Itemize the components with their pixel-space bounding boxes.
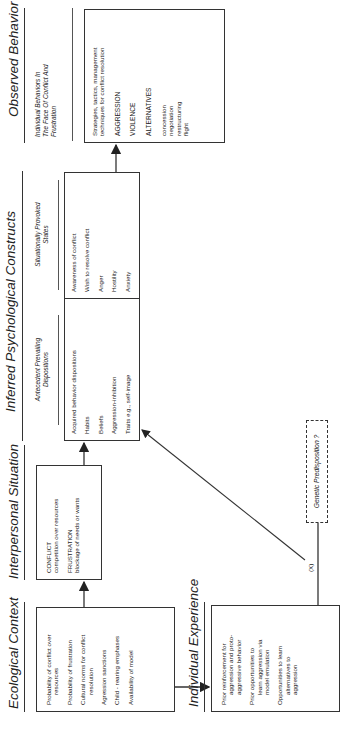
frustration-item: FRUSTRATIONblockage of needs or wants — [66, 472, 81, 573]
genetic-predisposition-label: Genetic Predisposition ? — [313, 435, 320, 509]
diagram-canvas: Ecological Context Probability of confli… — [0, 0, 347, 737]
conflict-item: CONFLICTcompetition over resources — [45, 472, 60, 573]
individual-item: Prior opportunities tolearn aggression v… — [248, 612, 270, 705]
connector-x-label: (X) — [307, 563, 314, 573]
situational-heading-rule — [58, 180, 59, 290]
interpersonal-situation-box: CONFLICTcompetition over resources FRUST… — [36, 465, 102, 580]
ecological-context-title: Ecological Context — [6, 597, 21, 709]
alternative-item: flight — [182, 16, 189, 136]
observed-title-rule — [24, 8, 25, 143]
alternatives-category: ALTERNATIVES — [145, 16, 152, 136]
individual-experience-box: Prior reinforcement foraggression and pr… — [211, 605, 340, 712]
disposition-item: Aggression-inhibition — [110, 350, 117, 434]
interpersonal-title-rule — [24, 445, 25, 580]
observed-behavior-box: Strategies, tactics, management techniqu… — [84, 9, 225, 143]
disposition-item: Beliefs — [97, 350, 104, 434]
state-item: Anxiety — [124, 229, 131, 292]
inferred-title-rule — [22, 171, 23, 441]
inferred-constructs-title: Inferred Psychological Constructs — [3, 211, 18, 412]
ecological-item: Cultural norms for conflictresolution — [79, 614, 94, 705]
interpersonal-situation-title: Interpersonal Situation — [6, 444, 21, 579]
genetic-predisposition-box: Genetic Predisposition ? — [306, 420, 328, 523]
alternative-item: negotiation — [167, 16, 174, 136]
antecedent-dispositions-heading: Antecedent PrevailingDispositions — [34, 312, 50, 427]
alternative-item: concession — [160, 16, 167, 136]
situational-states-heading: Situationally ProvokedStates — [34, 177, 50, 292]
ecological-item: Probability of frustration — [66, 614, 73, 705]
individual-title-rule — [204, 602, 205, 712]
disposition-item: Habits — [83, 350, 90, 434]
disposition-item: Traits e.g., self-image — [124, 350, 131, 434]
individual-item: Prior reinforcement foraggression and pr… — [220, 612, 242, 705]
ecological-title-rule — [24, 602, 25, 712]
aggression-category: AGGRESSION — [114, 16, 121, 136]
ecological-item: Probability of conflict overresources — [45, 614, 60, 705]
ecological-item: Agression sanctions — [100, 614, 107, 705]
inferred-constructs-box: Acquired behavior dispositions Habits Be… — [64, 172, 140, 441]
antecedent-heading-rule — [58, 315, 59, 425]
ecological-item: Availability of model — [127, 614, 134, 705]
alternative-item: restructuring — [175, 16, 182, 136]
ecological-context-box: Probability of conflict overresources Pr… — [36, 607, 175, 712]
individual-item: Opportunities to learnalternatives toagg… — [276, 612, 298, 705]
disposition-item: Acquired behavior dispositions — [70, 350, 77, 434]
state-item: Awareness of conflict — [70, 229, 77, 292]
state-item: Anger — [97, 229, 104, 292]
observed-behavior-title: Observed Behavior — [6, 1, 21, 117]
individual-experience-title: Individual Experience — [186, 579, 201, 707]
violence-category: VIOLENCE — [129, 16, 136, 136]
state-item: Hostility — [110, 229, 117, 292]
observed-intro: Strategies, tactics, management — [91, 16, 98, 136]
ecological-item: Child - rearing emphases — [113, 614, 120, 705]
state-item: Wish to resolve conflict — [83, 229, 90, 292]
observed-intro: techniques for conflict resolution — [98, 16, 105, 136]
observed-subheading-rule — [72, 8, 73, 141]
observed-subheading: Individual Behaviors InThe Face Of Confl… — [34, 27, 58, 137]
inferred-divider — [65, 298, 139, 299]
